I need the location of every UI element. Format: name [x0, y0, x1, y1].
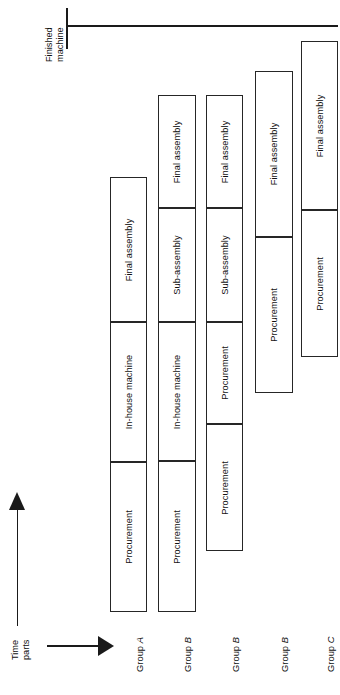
process-segment-label: In-house machine — [172, 354, 182, 429]
group-label: Group A — [134, 637, 145, 672]
process-segment-label: Procurement — [220, 461, 230, 515]
time-axis-label-line2: parts — [21, 640, 31, 660]
process-segment-label: In-house machine — [124, 355, 134, 430]
process-segment[interactable]: Final assembly — [255, 71, 293, 237]
parts-axis-shaft — [47, 645, 99, 647]
group-label: Group B — [279, 637, 290, 672]
process-segment-label: Final assembly — [172, 120, 182, 183]
group-label-letter: B — [279, 637, 290, 643]
process-segment[interactable]: Sub-assembly — [206, 208, 243, 322]
group-label-prefix: Group — [279, 643, 290, 672]
finished-machine-tick — [66, 8, 68, 49]
process-segment-label: Sub-assembly — [172, 235, 182, 294]
group-label: Group B — [230, 637, 241, 672]
process-segment[interactable]: Procurement — [301, 210, 338, 357]
supply-chain-lead-time-diagram: Finished machine Time parts Final assemb… — [0, 0, 340, 695]
process-segment-label: Procurement — [315, 257, 325, 311]
process-segment-label: Sub-assembly — [220, 235, 230, 294]
group-label-letter: B — [182, 637, 193, 643]
process-segment-label: Procurement — [269, 288, 279, 342]
time-axis-shaft — [17, 508, 18, 626]
group-label-letter: B — [230, 637, 241, 643]
process-segment-label: Procurement — [124, 510, 134, 564]
process-segment[interactable]: Sub-assembly — [158, 208, 196, 322]
process-segment-label: Procurement — [172, 510, 182, 564]
process-segment-label: Final assembly — [124, 218, 134, 281]
finished-machine-baseline — [66, 25, 338, 27]
process-segment-label: Final assembly — [269, 123, 279, 186]
group-label-prefix: Group — [230, 643, 241, 672]
process-segment[interactable]: Procurement — [206, 322, 243, 424]
finished-machine-label-line1: Finished — [44, 27, 54, 62]
process-segment-label: Procurement — [220, 346, 230, 400]
process-segment[interactable]: Final assembly — [110, 177, 147, 322]
process-segment[interactable]: In-house machine — [158, 322, 196, 461]
process-segment-label: Final assembly — [220, 120, 230, 183]
parts-axis-arrowhead-icon — [98, 636, 114, 656]
group-label-letter: A — [134, 637, 145, 643]
group-label-prefix: Group — [325, 643, 336, 672]
process-segment[interactable]: Final assembly — [206, 95, 243, 208]
process-segment-label: Final assembly — [315, 94, 325, 157]
time-axis-label-line1: Time — [10, 640, 20, 660]
process-segment[interactable]: Final assembly — [301, 41, 338, 210]
process-segment[interactable]: Procurement — [158, 461, 196, 612]
process-segment[interactable]: Procurement — [206, 424, 243, 551]
time-parts-axis-label: Time parts — [10, 640, 32, 660]
group-label: Group B — [182, 637, 193, 672]
finished-machine-label-line2: machine — [55, 27, 65, 62]
process-segment[interactable]: Procurement — [110, 462, 147, 612]
process-segment[interactable]: Procurement — [255, 237, 293, 393]
process-segment[interactable]: Final assembly — [158, 95, 196, 208]
group-label-prefix: Group — [182, 643, 193, 672]
finished-machine-label: Finished machine — [44, 27, 65, 62]
group-label-prefix: Group — [134, 643, 145, 672]
group-label-letter: C — [325, 637, 336, 644]
group-label: Group C — [325, 637, 336, 672]
process-segment[interactable]: In-house machine — [110, 322, 147, 462]
